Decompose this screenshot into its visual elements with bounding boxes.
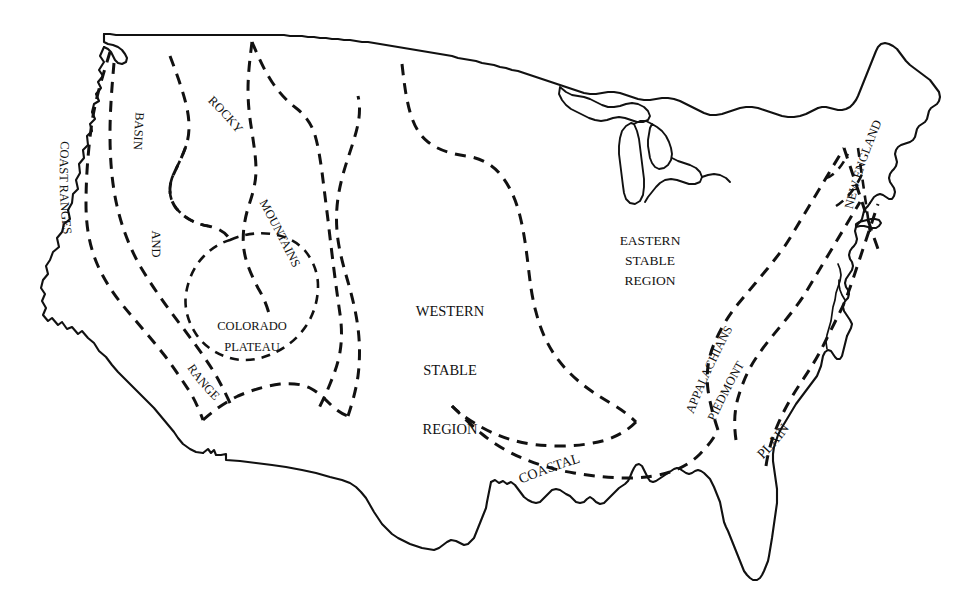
label-colorado: COLORADO <box>217 319 286 333</box>
label-and: AND <box>149 230 163 257</box>
label-eastern: EASTERN <box>620 233 681 248</box>
label-western: WESTERN <box>416 303 485 319</box>
label-plateau: PLATEAU <box>224 340 280 354</box>
label-basin: BASIN <box>131 112 147 150</box>
label-region: REGION <box>423 421 478 437</box>
map-figure: COAST RANGES BASIN AND RANGE ROCKY MOUNT… <box>0 0 974 615</box>
label-stable: STABLE <box>423 362 477 378</box>
label-eastern-stable: STABLE <box>625 253 675 268</box>
map-drawing: COAST RANGES BASIN AND RANGE ROCKY MOUNT… <box>0 0 974 615</box>
map-background <box>0 0 974 615</box>
label-eastern-region: REGION <box>625 273 676 288</box>
